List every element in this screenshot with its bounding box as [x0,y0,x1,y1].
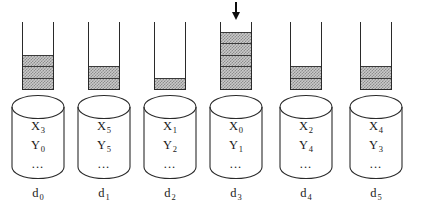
buffer-segment [221,43,251,55]
node-column-d0: X3Y0...d0 [4,0,72,222]
ellipsis-d2: ... [142,158,198,174]
subscript: 4 [308,144,313,154]
database-contents-d4: X2Y4... [278,120,334,174]
system-diagram: X3Y0...d0X5Y5...d1X1Y2...d2X0Y1...d3X2Y4… [0,0,445,222]
subscript: 1 [105,192,110,202]
database-cylinder-icon[interactable]: X5Y5... [76,94,132,180]
buffer-segment [23,55,53,67]
database-contents-d2: X1Y2... [142,120,198,174]
buffer-beaker-d5[interactable] [360,22,392,90]
buffer-segment [89,78,119,90]
buffer-segment [23,78,53,90]
subscript: 3 [40,125,45,135]
database-wrap-d1: X5Y5... [70,94,138,184]
subscript: 0 [40,144,45,154]
data-item-d5-0: X4 [348,120,404,139]
subscript: 2 [308,125,313,135]
node-label-d5: d5 [342,186,410,201]
buffer-segment [361,78,391,90]
subscript: 5 [377,192,382,202]
node-label-d3: d3 [202,186,270,201]
database-cylinder-icon[interactable]: X1Y2... [142,94,198,180]
buffer-beaker-wrap-d3 [202,20,270,90]
buffer-segment [221,78,251,90]
database-cylinder-icon[interactable]: X2Y4... [278,94,334,180]
data-item-d2-0: X1 [142,120,198,139]
data-item-d3-1: Y1 [208,139,264,158]
database-contents-d0: X3Y0... [10,120,66,174]
subscript: 3 [378,144,383,154]
subscript: 5 [106,144,111,154]
database-wrap-d0: X3Y0... [4,94,72,184]
data-item-d0-0: X3 [10,120,66,139]
ellipsis-d1: ... [76,158,132,174]
data-item-d5-1: Y3 [348,139,404,158]
buffer-beaker-d3[interactable] [220,22,252,90]
database-wrap-d2: X1Y2... [136,94,204,184]
subscript: 2 [172,144,177,154]
buffer-segment [23,66,53,78]
buffer-segment [89,66,119,78]
data-item-d4-0: X2 [278,120,334,139]
ellipsis-d0: ... [10,158,66,174]
subscript: 4 [307,192,312,202]
node-column-d3: X0Y1...d3 [202,0,270,222]
buffer-segment [221,32,251,44]
buffer-beaker-d1[interactable] [88,22,120,90]
node-column-d4: X2Y4...d4 [272,0,340,222]
buffer-segment [221,55,251,67]
node-label-d4: d4 [272,186,340,201]
buffer-segment [155,78,185,90]
buffer-segment [221,66,251,78]
data-item-d2-1: Y2 [142,139,198,158]
buffer-beaker-wrap-d2 [136,20,204,90]
database-cylinder-icon[interactable]: X0Y1... [208,94,264,180]
subscript: 0 [39,192,44,202]
buffer-beaker-wrap-d0 [4,20,72,90]
subscript: 4 [378,125,383,135]
database-wrap-d4: X2Y4... [272,94,340,184]
buffer-beaker-wrap-d4 [272,20,340,90]
buffer-beaker-d2[interactable] [154,22,186,90]
data-item-d0-1: Y0 [10,139,66,158]
data-item-d4-1: Y4 [278,139,334,158]
database-wrap-d3: X0Y1... [202,94,270,184]
node-label-d2: d2 [136,186,204,201]
database-wrap-d5: X4Y3... [342,94,410,184]
node-column-d2: X1Y2...d2 [136,0,204,222]
database-cylinder-icon[interactable]: X4Y3... [348,94,404,180]
node-column-d5: X4Y3...d5 [342,0,410,222]
subscript: 3 [237,192,242,202]
buffer-beaker-d4[interactable] [290,22,322,90]
arrow-head [232,12,240,20]
ellipsis-d4: ... [278,158,334,174]
incoming-request-arrow-d3 [202,2,270,22]
node-label-d0: d0 [4,186,72,201]
subscript: 0 [238,125,243,135]
data-item-d1-1: Y5 [76,139,132,158]
buffer-segment [291,66,321,78]
node-label-d1: d1 [70,186,138,201]
database-contents-d3: X0Y1... [208,120,264,174]
subscript: 1 [238,144,243,154]
subscript: 2 [171,192,176,202]
buffer-beaker-d0[interactable] [22,22,54,90]
database-contents-d1: X5Y5... [76,120,132,174]
ellipsis-d3: ... [208,158,264,174]
buffer-beaker-wrap-d1 [70,20,138,90]
node-column-d1: X5Y5...d1 [70,0,138,222]
buffer-beaker-wrap-d5 [342,20,410,90]
down-arrow-icon [232,2,241,20]
buffer-segment [291,78,321,90]
subscript: 5 [106,125,111,135]
database-contents-d5: X4Y3... [348,120,404,174]
subscript: 1 [172,125,177,135]
buffer-segment [361,66,391,78]
data-item-d3-0: X0 [208,120,264,139]
ellipsis-d5: ... [348,158,404,174]
database-cylinder-icon[interactable]: X3Y0... [10,94,66,180]
data-item-d1-0: X5 [76,120,132,139]
